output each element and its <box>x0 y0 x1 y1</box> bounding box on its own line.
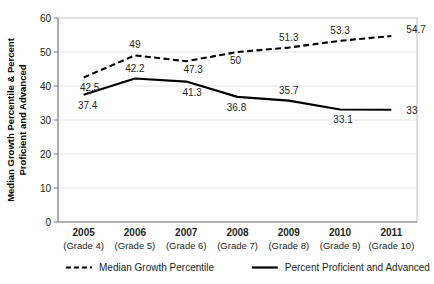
y-tick-label: 10 <box>40 183 52 194</box>
y-axis-title-line2: Proficient and Advanced <box>17 64 28 175</box>
data-label: 41.3 <box>182 87 202 98</box>
y-tick-label: 30 <box>40 115 52 126</box>
data-label: 37.4 <box>78 100 98 111</box>
line-chart: Median Growth Percentile & PercentProfic… <box>0 0 434 284</box>
x-tick-sublabel: (Grade 8) <box>268 240 309 251</box>
x-tick-sublabel: (Grade 10) <box>368 240 414 251</box>
x-tick-label: 2009 <box>278 227 301 238</box>
x-tick-label: 2006 <box>124 227 147 238</box>
y-tick-label: 60 <box>40 13 52 24</box>
data-label: 42.2 <box>125 63 145 74</box>
gridlines-group <box>58 52 417 188</box>
data-label: 47.3 <box>183 64 203 75</box>
tick-labels-group: 60504030201002005(Grade 4)2006(Grade 5)2… <box>40 13 414 251</box>
y-tick-label: 0 <box>45 217 51 228</box>
chart-container: Median Growth Percentile & PercentProfic… <box>0 0 434 284</box>
data-label: 35.7 <box>279 85 299 96</box>
legend: Median Growth PercentilePercent Proficie… <box>66 262 430 273</box>
legend-label-2: Percent Proficient and Advanced <box>285 262 430 273</box>
y-tick-label: 20 <box>40 149 52 160</box>
data-label: 53.3 <box>330 25 350 36</box>
data-label: 54.7 <box>406 24 426 35</box>
x-tick-sublabel: (Grade 4) <box>63 240 104 251</box>
y-axis-title: Median Growth Percentile & PercentProfic… <box>5 37 28 201</box>
x-tick-sublabel: (Grade 7) <box>217 240 258 251</box>
y-tick-label: 40 <box>40 81 52 92</box>
data-label: 42.5 <box>80 82 100 93</box>
data-label: 36.8 <box>227 102 247 113</box>
legend-label-1: Median Growth Percentile <box>99 262 214 273</box>
data-label: 33 <box>406 105 418 116</box>
x-tick-sublabel: (Grade 6) <box>166 240 207 251</box>
x-tick-sublabel: (Grade 9) <box>320 240 361 251</box>
y-axis-title-line1: Median Growth Percentile & Percent <box>5 37 16 201</box>
data-label: 33.1 <box>333 114 353 125</box>
data-label: 51.3 <box>279 32 299 43</box>
y-tick-label: 50 <box>40 47 52 58</box>
x-tick-label: 2011 <box>381 227 403 238</box>
x-tick-label: 2007 <box>175 227 198 238</box>
x-tick-label: 2005 <box>73 227 96 238</box>
x-tick-label: 2010 <box>329 227 352 238</box>
data-label: 49 <box>129 39 141 50</box>
data-label: 50 <box>230 55 242 66</box>
x-tick-label: 2008 <box>226 227 249 238</box>
x-tick-sublabel: (Grade 5) <box>115 240 156 251</box>
